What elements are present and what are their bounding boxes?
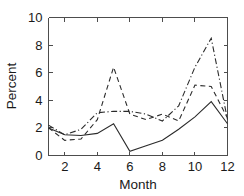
chart-figure: 246810120246810 Month Percent	[0, 0, 244, 196]
x-tick-label: 6	[126, 159, 133, 174]
y-tick-label: 2	[35, 120, 42, 135]
x-axis-title: Month	[119, 177, 157, 192]
y-tick-label: 10	[28, 10, 42, 25]
x-tick-label: 2	[61, 159, 68, 174]
y-tick-label: 8	[35, 38, 42, 53]
y-tick-label: 6	[35, 65, 42, 80]
x-tick-label: 4	[94, 159, 101, 174]
x-tick-label: 8	[159, 159, 166, 174]
chart-canvas: 246810120246810 Month Percent	[0, 0, 244, 196]
y-tick-label: 0	[35, 148, 42, 163]
y-tick-label: 4	[35, 93, 42, 108]
x-tick-label: 10	[188, 159, 202, 174]
x-tick-label: 12	[220, 159, 234, 174]
y-axis-title: Percent	[4, 62, 19, 109]
